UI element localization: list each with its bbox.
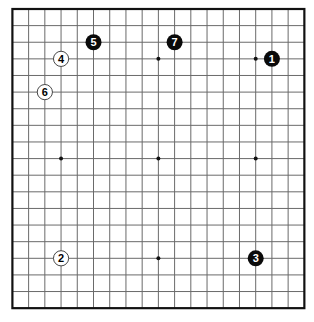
stone-number: 1 <box>269 53 275 65</box>
stone-number: 4 <box>58 53 65 65</box>
star-point <box>59 157 63 161</box>
stone-number: 2 <box>58 252 64 264</box>
stone-black-1[interactable]: 1 <box>264 51 280 67</box>
star-point <box>156 256 160 260</box>
stone-number: 7 <box>172 36 178 48</box>
stone-white-4[interactable]: 4 <box>53 51 68 66</box>
stone-white-2[interactable]: 2 <box>53 251 68 266</box>
stone-black-5[interactable]: 5 <box>86 34 102 50</box>
stone-white-6[interactable]: 6 <box>37 85 52 100</box>
stone-number: 5 <box>90 36 96 48</box>
star-point <box>156 57 160 61</box>
star-point <box>254 57 258 61</box>
stone-black-3[interactable]: 3 <box>248 250 264 266</box>
star-point <box>156 157 160 161</box>
go-board[interactable]: 1234567 <box>0 0 314 322</box>
stone-black-7[interactable]: 7 <box>167 34 183 50</box>
stone-number: 3 <box>253 252 259 264</box>
stone-number: 6 <box>42 86 48 98</box>
star-point <box>254 157 258 161</box>
